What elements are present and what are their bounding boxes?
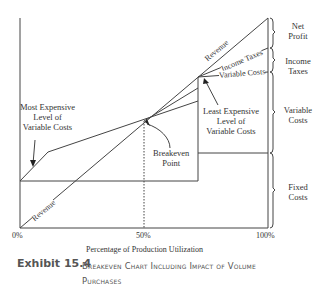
exhibit-caption: Breakeven Chart Including Impact of Volu… [82, 259, 256, 289]
least-expensive-pointer [206, 82, 218, 105]
mid-variable-line [144, 88, 198, 121]
x-tick-100: 100% [256, 231, 275, 241]
income-taxes-label: Income Taxes [280, 56, 316, 76]
variable-costs-label: Variable Costs [280, 105, 316, 125]
most-expensive-label: Most Expensive Level of Variable Costs [20, 102, 75, 132]
fixed-costs-label: Fixed Costs [280, 182, 316, 202]
exhibit-number: Exhibit 15.4 [17, 257, 91, 270]
breakeven-label: Breakeven Point [153, 148, 189, 168]
variable-costs-bracket [270, 72, 275, 153]
least-expensive-label: Least Expensive Level of Variable Costs [203, 106, 259, 136]
x-axis-label: Percentage of Production Utilization [86, 245, 203, 255]
net-profit-label: Net Profit [280, 21, 316, 41]
x-tick-0: 0% [12, 231, 23, 241]
fixed-costs-bracket [270, 153, 275, 228]
arrowhead-icon [203, 78, 209, 84]
breakeven-pointer [147, 124, 170, 148]
x-tick-50: 50% [136, 231, 151, 241]
net-profit-bracket [270, 18, 275, 48]
income-taxes-bracket [270, 48, 275, 72]
